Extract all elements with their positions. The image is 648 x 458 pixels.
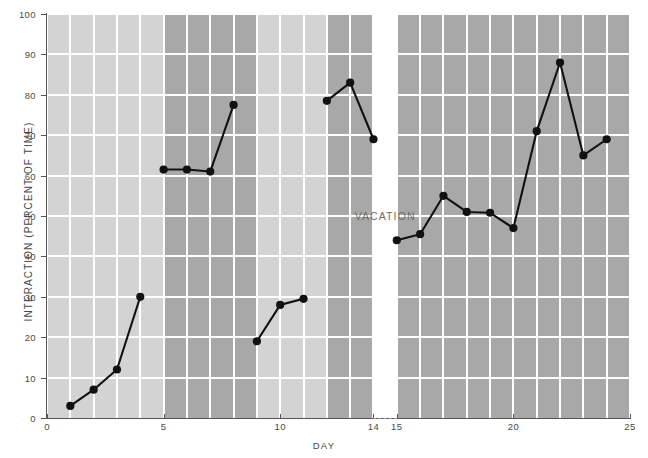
x-tick-mark — [47, 414, 48, 419]
y-axis-label: INTERACTION (PERCENT OF TIME) — [23, 102, 34, 342]
x-axis-label: DAY — [0, 440, 648, 451]
data-point — [66, 402, 74, 410]
vacation-gap-dashed-line — [373, 418, 396, 419]
y-tick-mark — [41, 418, 46, 419]
y-tick-label: 10 — [8, 372, 36, 383]
x-tick-label: 15 — [391, 421, 402, 432]
y-tick-mark — [41, 14, 46, 15]
data-point — [206, 167, 214, 175]
data-series-line — [47, 14, 630, 418]
data-point — [369, 135, 377, 143]
data-point — [463, 208, 471, 216]
data-point — [393, 236, 401, 244]
y-axis-line — [46, 13, 47, 419]
plot-area — [47, 14, 630, 418]
data-point — [90, 386, 98, 394]
x-tick-label: 0 — [44, 421, 50, 432]
y-tick-mark — [41, 95, 46, 96]
data-point — [183, 165, 191, 173]
data-point — [113, 365, 121, 373]
data-point — [299, 295, 307, 303]
data-point — [323, 97, 331, 105]
data-point — [416, 230, 424, 238]
series-segment — [70, 297, 140, 406]
y-tick-mark — [41, 216, 46, 217]
data-point — [556, 58, 564, 66]
x-tick-label: 25 — [624, 421, 635, 432]
data-point — [229, 101, 237, 109]
y-tick-mark — [41, 378, 46, 379]
y-tick-mark — [41, 54, 46, 55]
data-point — [603, 135, 611, 143]
y-tick-label: 100 — [8, 9, 36, 20]
x-tick-mark — [397, 414, 398, 419]
data-point — [486, 209, 494, 217]
x-axis-line — [46, 418, 631, 419]
data-point — [160, 165, 168, 173]
y-tick-mark — [41, 135, 46, 136]
x-tick-mark — [164, 414, 165, 419]
data-point — [509, 224, 517, 232]
data-point — [533, 127, 541, 135]
chart-figure: 0102030405060708090100 051014152025 INTE… — [0, 0, 648, 458]
x-tick-label: 20 — [508, 421, 519, 432]
x-tick-mark — [280, 414, 281, 419]
y-tick-mark — [41, 337, 46, 338]
x-tick-label: 10 — [275, 421, 286, 432]
x-tick-label: 14 — [368, 421, 379, 432]
y-tick-mark — [41, 297, 46, 298]
data-point — [276, 301, 284, 309]
y-tick-mark — [41, 176, 46, 177]
series-segment — [397, 62, 607, 240]
y-tick-label: 0 — [8, 413, 36, 424]
x-tick-label: 5 — [161, 421, 167, 432]
y-tick-label: 80 — [8, 89, 36, 100]
series-segment — [327, 83, 374, 140]
x-tick-mark — [630, 414, 631, 419]
series-segment — [164, 105, 234, 172]
vacation-annotation: VACATION — [355, 210, 416, 222]
data-point — [579, 151, 587, 159]
data-point — [346, 79, 354, 87]
y-tick-label: 90 — [8, 49, 36, 60]
x-tick-mark — [513, 414, 514, 419]
y-tick-mark — [41, 256, 46, 257]
data-point — [439, 192, 447, 200]
data-point — [253, 337, 261, 345]
data-point — [136, 293, 144, 301]
